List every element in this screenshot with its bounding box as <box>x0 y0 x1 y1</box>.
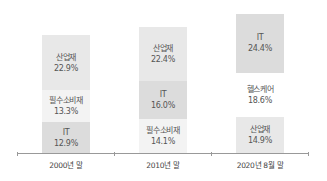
segment-value: 14.1% <box>151 136 175 147</box>
segment-value: 22.4% <box>151 54 175 65</box>
segment-name: IT <box>63 127 70 138</box>
bar-segment: IT24.4% <box>236 14 284 73</box>
segment-name: 산업재 <box>56 52 76 63</box>
x-axis-label-2020-aug: 2020년 8월 말 <box>215 159 305 170</box>
segment-name: 산업재 <box>250 124 270 135</box>
segment-value: 16.0% <box>151 100 175 111</box>
bar-stack: 필수소비재14.1%IT16.0%산업재22.4% <box>139 0 187 153</box>
segment-name: IT <box>257 32 264 43</box>
segment-value: 24.4% <box>248 43 272 54</box>
bar-stack: 산업재14.9%헬스케어18.6%IT24.4% <box>236 0 284 153</box>
x-axis-line <box>17 153 309 154</box>
x-axis-tick <box>17 152 18 156</box>
bar-segment: 산업재22.9% <box>42 35 90 90</box>
x-axis-tick <box>308 152 309 156</box>
bar-stack: IT12.9%필수소비재13.3%산업재22.9% <box>42 0 90 153</box>
segment-name: IT <box>160 89 167 100</box>
bar-segment: IT12.9% <box>42 122 90 153</box>
segment-value: 14.9% <box>248 135 272 146</box>
segment-value: 13.3% <box>54 106 78 117</box>
x-axis-label-2000: 2000년 말 <box>21 159 111 170</box>
bar-segment: 헬스케어18.6% <box>236 73 284 118</box>
bar-segment: IT16.0% <box>139 81 187 119</box>
segment-value: 18.6% <box>248 95 272 106</box>
bar-segment: 필수소비재14.1% <box>139 119 187 153</box>
x-axis-tick <box>114 152 115 156</box>
segment-value: 12.9% <box>54 138 78 149</box>
segment-value: 22.9% <box>54 63 78 74</box>
x-axis-label-2010: 2010년 말 <box>118 159 208 170</box>
x-axis-tick <box>211 152 212 156</box>
segment-name: 필수소비재 <box>146 125 180 136</box>
segment-name: 산업재 <box>153 43 173 54</box>
segment-name: 헬스케어 <box>247 84 274 95</box>
segment-name: 필수소비재 <box>49 95 83 106</box>
bar-segment: 산업재14.9% <box>236 117 284 153</box>
bar-segment: 산업재22.4% <box>139 27 187 81</box>
bar-segment: 필수소비재13.3% <box>42 90 90 122</box>
